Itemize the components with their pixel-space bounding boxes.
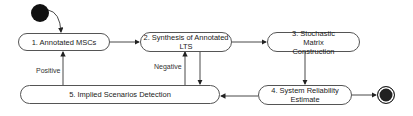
- edge-label-positive: Positive: [36, 67, 61, 74]
- node-label: 5. Implied Scenarios Detection: [69, 90, 171, 99]
- initial-state-node: [31, 4, 49, 22]
- node-system-reliability-estimate: 4. System Reliability Estimate: [258, 85, 352, 105]
- node-label: 3. Stochastic Matrix Construction: [282, 29, 345, 56]
- edge-start-to-n1: [48, 10, 61, 32]
- node-label: 4. System Reliability Estimate: [271, 86, 339, 104]
- node-synthesis-annotated-lts: 2. Synthesis of Annotated LTS: [140, 32, 232, 52]
- node-label: 1. Annotated MSCs: [32, 38, 97, 47]
- edge-label-negative: Negative: [154, 63, 182, 70]
- final-state-node: [377, 86, 395, 104]
- node-label: 2. Synthesis of Annotated LTS: [141, 33, 231, 51]
- node-stochastic-matrix-construction: 3. Stochastic Matrix Construction: [267, 32, 360, 52]
- node-annotated-mscs: 1. Annotated MSCs: [18, 33, 110, 51]
- node-implied-scenarios-detection: 5. Implied Scenarios Detection: [20, 85, 220, 104]
